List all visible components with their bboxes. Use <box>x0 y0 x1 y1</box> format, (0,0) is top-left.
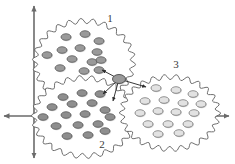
cluster-boundary-3 <box>119 75 220 152</box>
cluster-group-3 <box>119 75 220 152</box>
data-point-marker <box>153 131 163 138</box>
data-point-marker <box>178 100 188 107</box>
data-point-marker <box>94 38 104 45</box>
data-point-marker <box>100 107 110 114</box>
data-point-marker <box>61 34 71 41</box>
data-point-marker <box>80 111 90 118</box>
cluster-label-1: 1 <box>107 12 113 24</box>
data-point-marker <box>135 110 145 117</box>
data-point-marker <box>80 31 90 38</box>
data-point-marker <box>100 128 110 135</box>
data-point-marker <box>42 52 52 59</box>
data-point-marker <box>140 98 150 105</box>
data-point-marker <box>61 112 71 119</box>
data-point-marker <box>92 49 102 56</box>
data-point-marker <box>62 133 72 140</box>
data-point-marker <box>67 101 77 108</box>
data-point-marker <box>189 110 199 117</box>
data-point-marker <box>73 122 83 129</box>
data-point-marker <box>87 59 97 66</box>
data-point-marker <box>55 65 65 72</box>
cluster-label-3: 3 <box>173 58 179 70</box>
data-point-marker <box>171 87 181 94</box>
data-point-marker <box>174 130 184 137</box>
data-point-marker <box>67 56 77 63</box>
data-point-marker <box>153 108 163 115</box>
data-point-marker <box>57 47 67 54</box>
data-point-marker <box>143 121 153 128</box>
clusters-layer <box>31 18 220 158</box>
data-point-marker <box>58 94 68 101</box>
data-point-marker <box>163 121 173 128</box>
data-point-marker <box>188 91 198 98</box>
data-point-marker <box>93 121 103 128</box>
data-point-marker <box>96 57 106 64</box>
data-point-marker <box>151 85 161 92</box>
data-point-marker <box>87 100 97 107</box>
data-point-marker <box>105 114 115 121</box>
cluster-label-2: 2 <box>99 138 105 150</box>
data-point-marker <box>51 123 61 130</box>
data-point-marker <box>79 68 89 75</box>
data-point-marker <box>183 121 193 128</box>
data-point-marker <box>196 101 206 108</box>
diagram-canvas: 123 <box>0 0 235 164</box>
data-point-marker <box>77 90 87 97</box>
data-point-marker <box>38 114 48 121</box>
data-point-marker <box>171 109 181 116</box>
data-point-marker <box>75 45 85 52</box>
central-hub-node <box>113 75 126 84</box>
data-point-marker <box>47 104 57 111</box>
data-point-marker <box>83 132 93 139</box>
cluster-diagram-figure: 123 <box>0 0 235 164</box>
data-point-marker <box>159 97 169 104</box>
